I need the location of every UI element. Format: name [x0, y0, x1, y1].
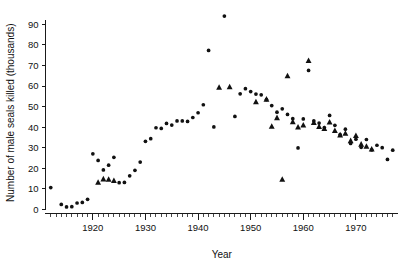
data-point-circle	[328, 114, 332, 118]
y-tick-label-60: 60	[28, 80, 39, 91]
data-point-triangle	[269, 123, 275, 129]
data-point-circle	[154, 126, 158, 130]
data-point-circle	[80, 201, 84, 205]
data-point-circle	[144, 139, 148, 143]
data-point-circle	[333, 123, 337, 127]
data-point-circle	[170, 123, 174, 127]
data-point-circle	[233, 115, 237, 119]
data-point-circle	[65, 205, 69, 209]
data-point-circle	[249, 90, 253, 94]
data-point-circle	[180, 119, 184, 123]
data-point-circle	[96, 159, 100, 163]
data-point-circle	[275, 110, 279, 114]
data-point-circle	[386, 158, 390, 162]
data-point-circle	[107, 163, 111, 167]
data-point-circle	[175, 119, 179, 123]
data-point-triangle	[353, 132, 359, 138]
data-point-circle	[296, 146, 300, 150]
data-point-triangle	[264, 96, 270, 102]
x-tick-label-1940: 1940	[188, 222, 209, 233]
scatter-chart: 0102030405060708090192019301940195019601…	[0, 0, 412, 266]
y-tick-label-90: 90	[28, 19, 39, 30]
data-point-circle	[207, 49, 211, 53]
x-tick-label-1960: 1960	[293, 222, 314, 233]
data-point-triangle	[342, 130, 348, 136]
data-point-circle	[59, 203, 63, 207]
data-point-circle	[238, 92, 242, 96]
data-point-circle	[117, 181, 121, 185]
data-point-triangle	[274, 115, 280, 121]
data-point-triangle	[285, 73, 291, 79]
y-tick-label-20: 20	[28, 163, 39, 174]
y-tick-label-50: 50	[28, 101, 39, 112]
data-point-triangle	[311, 120, 317, 126]
data-point-circle	[123, 181, 127, 185]
data-point-circle	[133, 168, 137, 172]
data-point-triangle	[295, 124, 301, 130]
data-point-triangle	[300, 122, 306, 128]
data-point-circle	[112, 156, 116, 160]
data-point-circle	[259, 93, 263, 97]
data-point-circle	[301, 117, 305, 121]
data-point-triangle	[290, 119, 296, 125]
data-point-triangle	[227, 84, 233, 90]
data-point-triangle	[363, 143, 369, 149]
data-point-triangle	[358, 141, 364, 147]
data-point-triangle	[369, 146, 375, 152]
data-point-circle	[86, 197, 90, 201]
y-tick-label-70: 70	[28, 60, 39, 71]
chart-plot-area: 0102030405060708090192019301940195019601…	[0, 0, 412, 266]
data-point-circle	[196, 111, 200, 115]
data-point-circle	[149, 137, 153, 141]
data-point-triangle	[348, 138, 354, 144]
y-tick-label-0: 0	[33, 204, 38, 215]
y-tick-label-80: 80	[28, 39, 39, 50]
data-point-triangle	[327, 119, 333, 125]
data-point-circle	[391, 148, 395, 152]
data-point-circle	[270, 104, 274, 108]
data-point-circle	[223, 14, 227, 18]
data-point-circle	[375, 143, 379, 147]
data-point-circle	[70, 205, 74, 209]
data-point-circle	[191, 116, 195, 120]
data-point-triangle	[337, 132, 343, 138]
y-tick-label-40: 40	[28, 122, 39, 133]
data-point-circle	[380, 146, 384, 150]
y-tick-label-10: 10	[28, 183, 39, 194]
x-tick-label-1970: 1970	[345, 222, 366, 233]
data-point-triangle	[279, 176, 285, 182]
data-point-triangle	[332, 128, 338, 134]
data-point-triangle	[253, 99, 259, 105]
data-point-circle	[49, 186, 53, 190]
x-tick-label-1920: 1920	[82, 222, 103, 233]
data-point-circle	[212, 125, 216, 129]
data-point-circle	[201, 103, 205, 107]
x-axis-title: Year	[212, 249, 233, 260]
data-point-circle	[165, 122, 169, 126]
data-point-circle	[138, 160, 142, 164]
data-point-triangle	[95, 179, 101, 185]
data-point-circle	[307, 69, 311, 73]
x-tick-label-1930: 1930	[135, 222, 156, 233]
data-point-circle	[286, 113, 290, 117]
data-point-circle	[102, 168, 106, 172]
data-point-triangle	[316, 123, 322, 129]
data-point-triangle	[306, 57, 312, 63]
data-point-triangle	[100, 176, 106, 182]
data-point-circle	[159, 127, 163, 131]
data-point-triangle	[106, 176, 112, 182]
data-point-triangle	[111, 178, 117, 184]
data-point-circle	[254, 92, 258, 96]
y-axis-title: Number of male seals killed (thousands)	[5, 24, 16, 202]
data-point-triangle	[216, 84, 222, 90]
data-point-circle	[91, 152, 95, 156]
data-point-circle	[75, 201, 79, 205]
data-point-triangle	[321, 125, 327, 131]
x-tick-label-1950: 1950	[240, 222, 261, 233]
data-point-circle	[244, 87, 248, 91]
data-point-circle	[186, 120, 190, 124]
data-point-circle	[365, 138, 369, 142]
data-point-circle	[128, 174, 132, 178]
data-point-circle	[280, 107, 284, 111]
y-tick-label-30: 30	[28, 142, 39, 153]
